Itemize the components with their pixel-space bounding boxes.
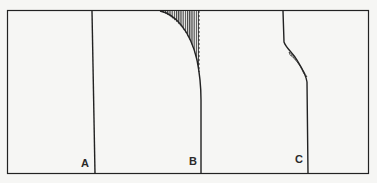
panel-label-a: A	[81, 157, 89, 169]
profile-b-hatched-region	[160, 11, 199, 72]
panel-label-c: C	[295, 153, 303, 165]
profile-c-line	[283, 11, 308, 174]
profile-a-line	[92, 11, 95, 174]
panel-label-b: B	[189, 155, 197, 167]
